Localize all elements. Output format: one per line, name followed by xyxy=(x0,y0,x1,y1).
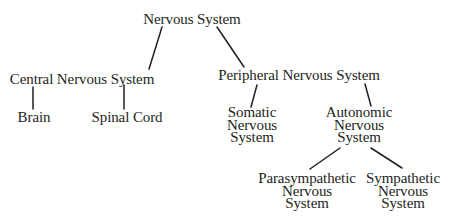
edge-peripheral-to-autonomic xyxy=(365,84,371,106)
node-spinal-cord: Spinal Cord xyxy=(92,111,163,124)
edge-root-to-peripheral xyxy=(217,27,244,67)
edge-root-to-central xyxy=(149,27,162,69)
node-brain: Brain xyxy=(18,111,51,124)
node-nervous-system: Nervous System xyxy=(143,13,240,26)
node-central-nervous-system: Central Nervous System xyxy=(10,73,154,86)
node-peripheral-nervous-system: Peripheral Nervous System xyxy=(218,69,380,82)
node-autonomic-nervous-system: Autonomic Nervous System xyxy=(326,106,393,144)
node-somatic-nervous-system: Somatic Nervous System xyxy=(227,106,277,144)
node-label-line-3: System xyxy=(258,197,356,210)
node-sympathetic-nervous-system: Sympathetic Nervous System xyxy=(366,172,440,210)
node-parasympathetic-nervous-system: Parasympathetic Nervous System xyxy=(258,172,356,210)
node-label-line-3: System xyxy=(326,131,393,144)
node-label-line-3: System xyxy=(227,131,277,144)
node-label-line-3: System xyxy=(366,197,440,210)
node-label: Peripheral Nervous System xyxy=(218,69,380,82)
node-label: Spinal Cord xyxy=(92,111,163,124)
node-label: Brain xyxy=(18,111,51,124)
edge-autonomic-to-parasympathetic xyxy=(310,148,340,169)
node-label: Central Nervous System xyxy=(10,73,154,86)
nervous-system-tree-diagram: Nervous System Central Nervous System Pe… xyxy=(0,0,453,223)
node-label: Nervous System xyxy=(143,13,240,26)
edge-autonomic-to-sympathetic xyxy=(371,148,402,168)
